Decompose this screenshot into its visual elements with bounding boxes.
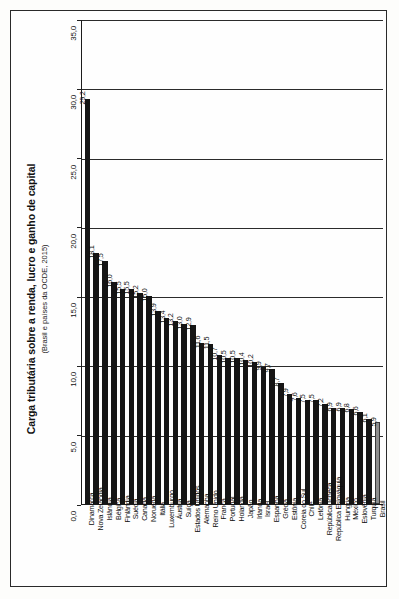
bar-slot: 13,2 xyxy=(171,20,180,504)
bar[interactable]: 13,9 xyxy=(155,311,160,504)
y-tick-label: 15,0 xyxy=(69,303,78,318)
y-tick-label: 35,0 xyxy=(69,26,78,41)
bar-slot: 10,7 xyxy=(215,20,224,504)
bar-slot: 6,9 xyxy=(338,20,347,504)
bar[interactable]: 17,5 xyxy=(102,261,107,504)
bar[interactable]: 10,5 xyxy=(225,358,230,504)
bar-slot: 16,0 xyxy=(109,20,118,504)
axis-area: 0,05,010,015,020,025,030,035,0 29,218,11… xyxy=(58,20,383,505)
bar-slot: 8,7 xyxy=(277,20,286,504)
x-label-slot: Holanda xyxy=(233,507,242,599)
bar-value-label: 6,9 xyxy=(325,403,334,412)
bar-slot: 15,0 xyxy=(145,20,154,504)
bar-value-label: 9,7 xyxy=(263,364,272,373)
bar-value-label: 13,9 xyxy=(149,304,158,317)
bar-value-label: 10,5 xyxy=(219,351,228,364)
bar[interactable]: 29,2 xyxy=(85,99,90,504)
bar-slot: 13,4 xyxy=(162,20,171,504)
x-label-slot: Espanha xyxy=(268,507,277,599)
x-label-slot: Irlanda xyxy=(250,507,259,599)
bar[interactable]: 13,0 xyxy=(181,324,186,504)
bar[interactable]: 18,1 xyxy=(93,253,98,504)
bar-slot: 6,1 xyxy=(365,20,374,504)
bar-slot: 29,2 xyxy=(83,20,92,504)
bar-value-label: 6,8 xyxy=(342,404,351,413)
y-tick-label: 20,0 xyxy=(69,234,78,249)
bar-value-label: 7,5 xyxy=(307,394,316,403)
bar-value-label: 17,5 xyxy=(96,254,105,267)
x-label-slot: Japão xyxy=(241,507,250,599)
bar-value-label: 7,9 xyxy=(281,389,290,398)
y-tick-label: 5,0 xyxy=(69,442,78,453)
bar-value-label: 13,0 xyxy=(175,316,184,329)
bar[interactable]: 11,5 xyxy=(208,344,213,503)
bar[interactable]: 13,4 xyxy=(164,318,169,504)
bar-slot: 15,2 xyxy=(136,20,145,504)
bar-slot: 12,9 xyxy=(189,20,198,504)
x-label-slot: Nova Zelândia xyxy=(92,507,101,599)
chart-subtitle: (Brasil e países da OCDE, 2015) xyxy=(40,244,49,353)
figure-canvas: Carga tributária sobre a renda, lucro e … xyxy=(0,0,399,599)
x-label-slot: Finlândia xyxy=(118,507,127,599)
x-label-slot: Israel xyxy=(259,507,268,599)
bar-value-label: 10,5 xyxy=(228,351,237,364)
bar[interactable]: 15,2 xyxy=(137,293,142,504)
x-label-slot: Dinamarca xyxy=(83,507,92,599)
bar-slot: 11,6 xyxy=(197,20,206,504)
bar[interactable]: 15,5 xyxy=(120,289,125,504)
x-label-slot: Letônia xyxy=(312,507,321,599)
x-label-slot: Islândia xyxy=(101,507,110,599)
page-title: Carga tributária sobre a renda, lucro e … xyxy=(25,163,37,433)
bar[interactable]: 10,5 xyxy=(234,358,239,504)
bar-slot: 10,4 xyxy=(241,20,250,504)
x-label-slot: Áustria xyxy=(171,507,180,599)
bar[interactable]: 15,0 xyxy=(146,296,151,504)
y-tick-label: 25,0 xyxy=(69,165,78,180)
bar[interactable]: 8,7 xyxy=(278,383,283,504)
bar[interactable]: 10,7 xyxy=(217,355,222,503)
bar-value-label: 5,9 xyxy=(369,417,378,426)
bar[interactable]: 5,9 xyxy=(375,422,380,504)
bar-value-label: 6,1 xyxy=(360,414,369,423)
bar[interactable]: 11,6 xyxy=(199,343,204,504)
x-label-slot: República Eslováquia xyxy=(329,507,338,599)
bar-value-label: 10,7 xyxy=(210,348,219,361)
bar-slot: 5,9 xyxy=(373,20,382,504)
bar[interactable]: 10,4 xyxy=(243,360,248,504)
bar[interactable]: 6,6 xyxy=(357,412,362,503)
bar[interactable]: 9,9 xyxy=(261,367,266,504)
y-tick-label: 30,0 xyxy=(69,95,78,110)
bar[interactable]: 10,2 xyxy=(252,362,257,503)
bar-slot: 6,8 xyxy=(347,20,356,504)
bar-value-label: 15,2 xyxy=(131,286,140,299)
bar[interactable]: 15,5 xyxy=(129,289,134,504)
bar[interactable]: 12,9 xyxy=(190,325,195,504)
bar-slot: 13,0 xyxy=(180,20,189,504)
bar[interactable]: 9,7 xyxy=(269,369,274,503)
bar-slot: 10,5 xyxy=(224,20,233,504)
x-label-slot: Canadá xyxy=(136,507,145,599)
bar-value-label: 6,6 xyxy=(351,407,360,416)
x-label-slot: Coreia do Sul xyxy=(294,507,303,599)
bar-value-label: 7,2 xyxy=(316,398,325,407)
bar-value-label: 9,9 xyxy=(254,361,263,370)
bar[interactable]: 7,5 xyxy=(313,400,318,504)
x-label-slot: Noruega xyxy=(145,507,154,599)
bar-slot: 6,9 xyxy=(329,20,338,504)
bar[interactable]: 13,2 xyxy=(173,321,178,504)
bar-value-label: 18,1 xyxy=(87,245,96,258)
x-label-slot: Turquia xyxy=(365,507,374,599)
bar-slot: 7,9 xyxy=(285,20,294,504)
bar-slot: 10,2 xyxy=(250,20,259,504)
title-block: Carga tributária sobre a renda, lucro e … xyxy=(14,14,60,583)
bar-series: 29,218,117,516,015,515,515,215,013,913,4… xyxy=(83,20,382,504)
bar[interactable]: 16,0 xyxy=(111,282,116,504)
bar[interactable]: 6,1 xyxy=(366,419,371,504)
x-label-slot: México xyxy=(347,507,356,599)
bar-slot: 9,7 xyxy=(268,20,277,504)
bar[interactable]: 6,8 xyxy=(349,409,354,503)
x-label-slot: Grécia xyxy=(277,507,286,599)
bar[interactable]: 7,9 xyxy=(287,394,292,503)
bar-value-label: 29,2 xyxy=(78,92,87,105)
bar-value-label: 7,5 xyxy=(298,394,307,403)
